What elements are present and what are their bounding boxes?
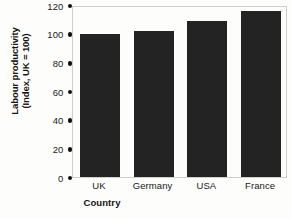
y-axis-tick: 0 [58, 172, 72, 184]
bar [187, 21, 227, 177]
plot-area [72, 6, 287, 178]
y-axis-tick: 60 [53, 86, 72, 98]
x-axis-category-label: Germany [133, 180, 173, 191]
y-axis-tick: 40 [53, 115, 72, 127]
x-axis-title: Country [62, 197, 142, 208]
y-axis-tick: 120 [47, 0, 72, 12]
y-axis-tick-label: 60 [53, 87, 64, 98]
bar [241, 11, 281, 177]
x-axis-categories: UKGermanyUSAFrance [72, 180, 287, 196]
y-axis-tick-label: 0 [58, 173, 63, 184]
bar [134, 31, 174, 177]
bar-chart: Labour productivity (Index, UK = 100) 02… [0, 0, 292, 219]
x-axis-category-label: UK [92, 180, 105, 191]
y-axis-tick-label: 120 [47, 1, 63, 12]
y-axis-tick-label: 20 [53, 144, 64, 155]
y-axis-tick: 80 [53, 57, 72, 69]
y-axis-tick-label: 40 [53, 115, 64, 126]
bars-layer [73, 7, 286, 177]
x-axis-category-label: France [245, 180, 275, 191]
x-axis-category-label: USA [196, 180, 216, 191]
y-axis-tick-label: 80 [53, 58, 64, 69]
y-axis-tick: 100 [47, 29, 72, 41]
y-axis-tick-label: 100 [47, 29, 63, 40]
y-axis-ticks: 020406080100120 [30, 0, 72, 219]
y-axis-tick: 20 [53, 143, 72, 155]
bar [80, 34, 120, 177]
